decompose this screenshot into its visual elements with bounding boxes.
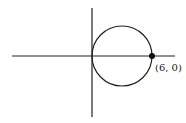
point-marker — [149, 53, 155, 59]
diagram-canvas: (6, 0) — [0, 0, 186, 123]
point-label: (6, 0) — [155, 62, 182, 73]
